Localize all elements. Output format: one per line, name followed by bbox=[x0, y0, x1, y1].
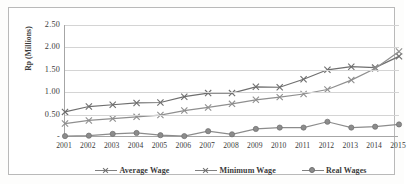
x-axis-tick-labels: 2001200220032004200520062007200820092010… bbox=[64, 141, 398, 152]
y-tick-label: 0.50 bbox=[14, 111, 60, 119]
x-tick-label: 2010 bbox=[266, 141, 292, 150]
gridline bbox=[65, 25, 399, 26]
x-tick-label: 2007 bbox=[194, 141, 220, 150]
y-axis-tick-labels: 2.502.001.501.000.50- bbox=[9, 25, 60, 137]
gridline bbox=[65, 115, 399, 116]
x-tick-label: 2001 bbox=[51, 141, 77, 150]
legend-item-real-wages[interactable]: Real Wages bbox=[302, 166, 367, 175]
chart-legend: Average WageMinimum WageReal Wages bbox=[64, 163, 398, 177]
x-tick-label: 2009 bbox=[242, 141, 268, 150]
x-marker-icon bbox=[195, 166, 217, 175]
legend-item-label: Minimum Wage bbox=[219, 166, 275, 175]
series-real-wages bbox=[62, 119, 401, 139]
y-tick-label: 1.00 bbox=[14, 88, 60, 96]
y-tick-label: 2.50 bbox=[14, 21, 60, 29]
gridline bbox=[65, 70, 399, 71]
x-tick-label: 2002 bbox=[75, 141, 101, 150]
y-tick-label: 2.00 bbox=[14, 43, 60, 51]
x-tick-label: 2011 bbox=[290, 141, 316, 150]
gridline bbox=[65, 92, 399, 93]
circle-marker-icon bbox=[302, 166, 324, 175]
series-average-wage bbox=[62, 53, 402, 115]
x-tick-label: 2005 bbox=[146, 141, 172, 150]
x-tick-label: 2006 bbox=[170, 141, 196, 150]
legend-item-label: Average Wage bbox=[119, 166, 169, 175]
x-tick-label: 2013 bbox=[337, 141, 363, 150]
series-lines bbox=[65, 25, 399, 137]
x-tick-label: 2004 bbox=[123, 141, 149, 150]
x-tick-label: 2008 bbox=[218, 141, 244, 150]
gridline bbox=[65, 47, 399, 48]
x-tick-label: 2014 bbox=[361, 141, 387, 150]
x-tick-label: 2015 bbox=[385, 141, 411, 150]
chart-frame: Rp (Millions) 2.502.001.501.000.50- 2001… bbox=[8, 7, 395, 175]
legend-item-average-wage[interactable]: Average Wage bbox=[95, 166, 169, 175]
x-tick-label: 2012 bbox=[313, 141, 339, 150]
x-marker-icon bbox=[95, 166, 117, 175]
x-tick-label: 2003 bbox=[99, 141, 125, 150]
y-tick-label: 1.50 bbox=[14, 66, 60, 74]
legend-item-label: Real Wages bbox=[326, 166, 367, 175]
y-tick-label: - bbox=[14, 133, 60, 141]
plot-area bbox=[64, 25, 398, 137]
legend-item-minimum-wage[interactable]: Minimum Wage bbox=[195, 166, 275, 175]
